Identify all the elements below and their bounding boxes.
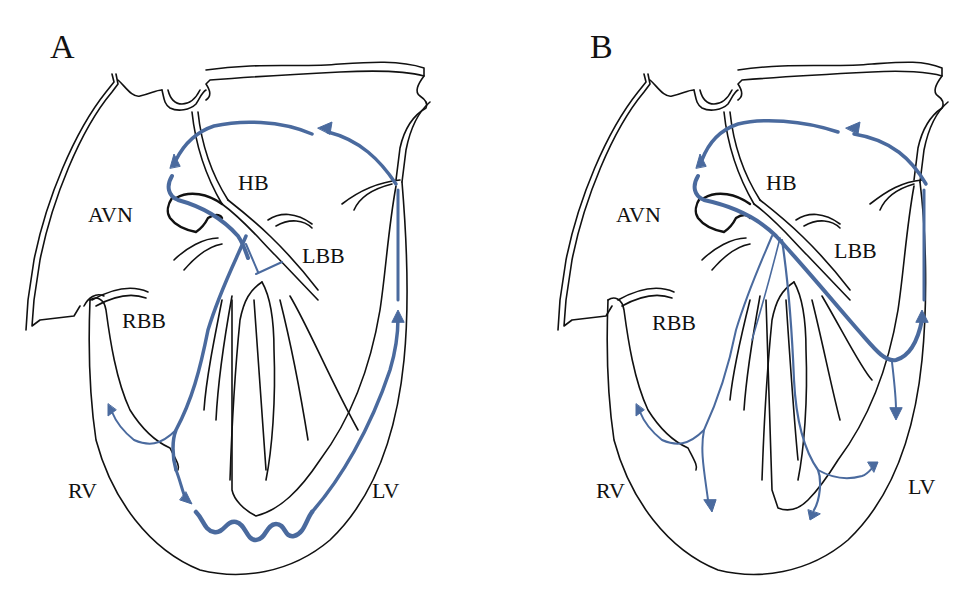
heart-diagram-a (0, 0, 482, 592)
label-lbb: LBB (302, 245, 345, 267)
label-rv: RV (596, 480, 625, 502)
label-rbb: RBB (652, 312, 696, 334)
label-hb: HB (766, 172, 797, 194)
label-avn: AVN (88, 204, 133, 226)
panel-label-b: B (590, 30, 613, 64)
label-rbb: RBB (122, 310, 166, 332)
panel-label-a: A (50, 30, 75, 64)
label-rv: RV (68, 480, 97, 502)
label-avn: AVN (616, 204, 661, 226)
label-hb: HB (238, 172, 269, 194)
label-lbb: LBB (834, 240, 877, 262)
label-lv: LV (372, 480, 399, 502)
panel-b: B HB AVN LBB RBB RV LV (482, 0, 964, 592)
label-lv: LV (908, 476, 935, 498)
heart-diagram-b (482, 0, 964, 592)
panel-a: A HB AVN LBB RBB RV LV (0, 0, 482, 592)
